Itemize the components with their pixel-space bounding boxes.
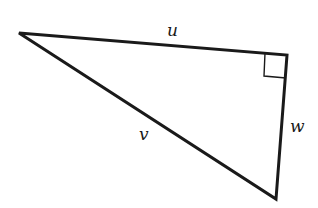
side-label-v: v bbox=[139, 126, 149, 143]
side-label-w: w bbox=[290, 118, 305, 135]
right-triangle-diagram bbox=[0, 0, 318, 208]
side-label-u: u bbox=[167, 22, 178, 39]
triangle-outline bbox=[19, 33, 287, 199]
right-angle-marker bbox=[264, 53, 286, 78]
